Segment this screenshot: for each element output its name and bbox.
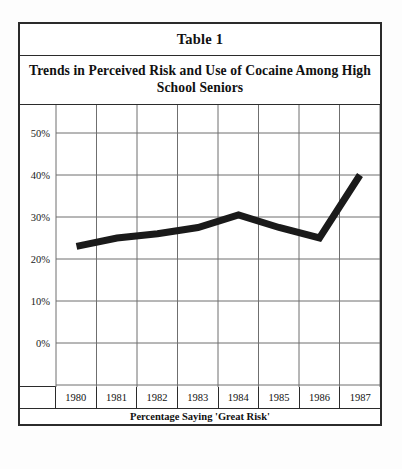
y-tick-label: 0% xyxy=(36,338,50,349)
x-tick-cell-1985: 1985 xyxy=(259,387,300,408)
y-tick-label: 30% xyxy=(31,212,51,223)
x-tick-cell-1982: 1982 xyxy=(137,387,178,408)
line-chart: 50% 40% 30% 20% 10% 0% xyxy=(20,105,380,387)
screenshot-root: Table 1 Trends in Perceived Risk and Use… xyxy=(0,0,402,469)
year-row-spacer-cell xyxy=(20,387,56,408)
y-tick-label: 40% xyxy=(31,170,51,181)
x-tick-cell-1980: 1980 xyxy=(56,387,97,408)
chart-caption: Percentage Saying 'Great Risk' xyxy=(130,411,270,422)
x-tick-cell-1984: 1984 xyxy=(219,387,260,408)
y-tick-label: 10% xyxy=(31,296,51,307)
y-tick-label: 50% xyxy=(31,128,51,139)
table-number-row: Table 1 xyxy=(20,24,380,56)
chart-caption-row: Percentage Saying 'Great Risk' xyxy=(20,409,380,424)
page-title: Trends in Perceived Risk and Use of Coca… xyxy=(26,63,374,96)
y-axis-tick-labels: 50% 40% 30% 20% 10% 0% xyxy=(31,128,51,349)
x-tick-cell-1981: 1981 xyxy=(97,387,138,408)
x-tick-cell-1987: 1987 xyxy=(340,387,380,408)
chart-area: 50% 40% 30% 20% 10% 0% xyxy=(20,105,380,387)
x-tick-cell-1983: 1983 xyxy=(178,387,219,408)
table-title-row: Trends in Perceived Risk and Use of Coca… xyxy=(20,56,380,105)
table-number-label: Table 1 xyxy=(177,31,223,48)
table-frame: Table 1 Trends in Perceived Risk and Use… xyxy=(18,22,382,426)
y-tick-label: 20% xyxy=(31,254,51,265)
x-tick-cell-1986: 1986 xyxy=(300,387,341,408)
x-axis-year-row: 1980 1981 1982 1983 1984 1985 1986 1987 xyxy=(20,387,380,409)
